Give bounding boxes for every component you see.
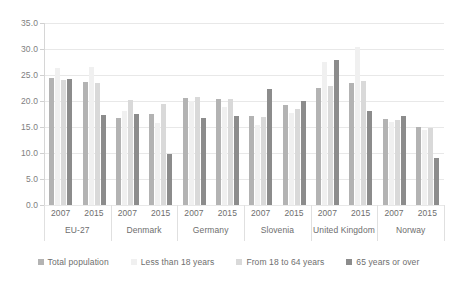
- x-axis-group: 20072015: [377, 208, 444, 222]
- bar: [355, 47, 360, 205]
- bar: [183, 98, 188, 205]
- plot-area: [44, 23, 444, 205]
- x-axis-year-label: 2007: [377, 208, 410, 222]
- bar: [228, 99, 233, 205]
- year-block: [144, 23, 177, 205]
- bar-groups: [44, 23, 444, 205]
- bar: [55, 68, 60, 205]
- bar: [389, 122, 394, 205]
- bar: [401, 116, 406, 205]
- country-group: [111, 23, 178, 205]
- legend-item[interactable]: Less than 18 years: [131, 257, 215, 267]
- legend-item[interactable]: Total population: [38, 257, 109, 267]
- x-axis-year-label: 2007: [244, 208, 277, 222]
- bar: [216, 99, 221, 205]
- bar: [222, 107, 227, 205]
- x-axis-year-label: 2007: [311, 208, 344, 222]
- legend-swatch-icon: [131, 259, 137, 265]
- bar: [328, 86, 333, 205]
- bar: [134, 114, 139, 205]
- bar: [49, 78, 54, 205]
- legend-label: Less than 18 years: [141, 257, 215, 267]
- y-axis-tick-label: 10.0: [4, 148, 38, 158]
- bar: [255, 125, 260, 205]
- y-axis-tick-label: 25.0: [4, 70, 38, 80]
- bar: [161, 104, 166, 205]
- year-block: [277, 23, 310, 205]
- x-axis-year-label: 2015: [277, 208, 310, 222]
- bar: [67, 79, 72, 205]
- x-axis-country-label: Germany: [177, 225, 244, 239]
- x-axis-group: 20072015: [244, 208, 311, 222]
- bar: [422, 130, 427, 205]
- bar: [316, 88, 321, 206]
- y-axis-tick-label: 0.0: [4, 200, 38, 210]
- bar: [283, 105, 288, 205]
- year-block: [244, 23, 277, 205]
- bar: [155, 123, 160, 205]
- year-block: [311, 23, 344, 205]
- y-axis-tick-label: 15.0: [4, 122, 38, 132]
- legend-label: From 18 to 64 years: [246, 257, 324, 267]
- x-axis-country-label: EU-27: [44, 225, 111, 239]
- bar: [101, 115, 106, 206]
- bar: [301, 101, 306, 205]
- x-axis-country-label: United Kingdom: [311, 225, 378, 239]
- x-axis-group: 20072015: [311, 208, 378, 222]
- bar-chart: 35.030.025.020.015.010.05.00.0 200720152…: [0, 0, 457, 282]
- y-axis-tick-label: 35.0: [4, 18, 38, 28]
- bar: [95, 83, 100, 205]
- legend-item[interactable]: 65 years or over: [346, 257, 419, 267]
- bar: [167, 154, 172, 206]
- bar: [195, 97, 200, 205]
- x-axis-year-label: 2015: [411, 208, 444, 222]
- year-block: [344, 23, 377, 205]
- bar: [234, 116, 239, 205]
- bar: [367, 111, 372, 205]
- bar: [395, 120, 400, 205]
- x-axis-year-label: 2015: [344, 208, 377, 222]
- bar: [83, 82, 88, 205]
- legend-label: 65 years or over: [356, 257, 419, 267]
- bar: [61, 80, 66, 205]
- year-block: [44, 23, 77, 205]
- y-axis-tick-label: 5.0: [4, 174, 38, 184]
- x-axis-country-labels: EU-27DenmarkGermanySloveniaUnited Kingdo…: [44, 225, 444, 239]
- bar: [149, 114, 154, 206]
- x-axis-group: 20072015: [177, 208, 244, 222]
- y-axis-tick-label: 30.0: [4, 44, 38, 54]
- x-axis-year-label: 2007: [44, 208, 77, 222]
- x-axis-country-label: Denmark: [111, 225, 178, 239]
- bar: [122, 111, 127, 205]
- country-group: [177, 23, 244, 205]
- x-axis-group: 20072015: [111, 208, 178, 222]
- x-axis-group: 20072015: [44, 208, 111, 222]
- bar: [428, 128, 433, 206]
- chart-legend: Total populationLess than 18 yearsFrom 1…: [0, 257, 457, 267]
- y-axis-tick-label: 20.0: [4, 96, 38, 106]
- bar: [295, 109, 300, 205]
- bar: [201, 118, 206, 205]
- country-group: [377, 23, 444, 205]
- x-axis-year-label: 2015: [211, 208, 244, 222]
- year-block: [111, 23, 144, 205]
- year-block: [377, 23, 410, 205]
- legend-swatch-icon: [346, 259, 352, 265]
- bar: [267, 89, 272, 206]
- legend-swatch-icon: [236, 259, 242, 265]
- bar: [261, 117, 266, 205]
- x-axis-year-label: 2015: [77, 208, 110, 222]
- year-block: [77, 23, 110, 205]
- country-group: [44, 23, 111, 205]
- bar: [322, 62, 327, 206]
- bar: [89, 67, 94, 205]
- bar: [361, 81, 366, 205]
- x-axis-country-label: Norway: [377, 225, 444, 239]
- year-block: [211, 23, 244, 205]
- x-axis-year-labels: 2007201520072015200720152007201520072015…: [44, 208, 444, 222]
- legend-item[interactable]: From 18 to 64 years: [236, 257, 324, 267]
- bar: [383, 119, 388, 205]
- x-axis-year-label: 2007: [111, 208, 144, 222]
- bar: [416, 127, 421, 205]
- x-axis-country-label: Slovenia: [244, 225, 311, 239]
